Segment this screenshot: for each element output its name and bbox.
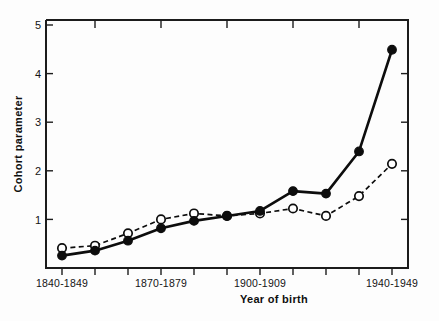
x-tick-label-1870-1879: 1870-1879: [135, 277, 187, 289]
line-chart-canvas: 1 2 3 4 5 1840-18491870-18791900-1909194…: [0, 0, 439, 321]
x-axis-ticks: [62, 268, 392, 275]
y-tick-label-1: 1: [35, 214, 41, 226]
data-point-filled-circle-series-1940-1949: [388, 45, 397, 54]
axis-frame: [46, 20, 408, 268]
data-point-filled-circle-series-1910-1919: [289, 187, 298, 196]
data-point-filled-circle-series-1890-1899: [223, 212, 232, 221]
series-line-filled-circle-series: [62, 50, 392, 256]
x-tick-label-1840-1849: 1840-1849: [36, 277, 88, 289]
y-axis-title: Cohort parameter: [12, 95, 24, 193]
y-tick-label-2: 2: [35, 165, 41, 177]
x-axis-tick-labels: 1840-18491870-18791900-19091940-1949: [36, 277, 418, 289]
y-tick-label-5: 5: [35, 19, 41, 31]
series-layer: [58, 45, 397, 259]
top-axis-ticks: [95, 20, 359, 28]
x-axis-title: Year of birth: [240, 293, 308, 305]
x-tick-label-1900-1909: 1900-1909: [234, 277, 286, 289]
data-point-open-circle-series-1920-1929: [322, 212, 330, 220]
data-point-filled-circle-series-1930-1939: [355, 147, 364, 156]
data-point-filled-circle-series-1900-1909: [256, 207, 265, 216]
series-line-open-circle-series: [62, 164, 392, 248]
data-point-filled-circle-series-1880-1889: [190, 217, 199, 226]
y-tick-label-4: 4: [35, 68, 41, 80]
y-axis-tick-labels: 1 2 3 4 5: [35, 19, 41, 225]
right-axis-ticks: [401, 74, 408, 220]
data-point-open-circle-series-1940-1949: [388, 160, 396, 168]
data-point-open-circle-series-1930-1939: [355, 192, 363, 200]
data-point-open-circle-series-1910-1919: [289, 204, 297, 212]
data-point-open-circle-series-1870-1879: [157, 215, 165, 223]
data-point-filled-circle-series-1870-1879: [157, 224, 166, 233]
data-point-filled-circle-series-1920-1929: [322, 189, 331, 198]
chart-figure: 1 2 3 4 5 1840-18491870-18791900-1909194…: [0, 0, 439, 321]
y-tick-label-3: 3: [35, 116, 41, 128]
data-point-filled-circle-series-1840-1849: [58, 251, 67, 260]
data-point-filled-circle-series-1850-1859: [91, 246, 100, 255]
data-point-filled-circle-series-1860-1869: [124, 236, 133, 245]
x-tick-label-1940-1949: 1940-1949: [366, 277, 418, 289]
y-axis-ticks: [46, 25, 53, 219]
